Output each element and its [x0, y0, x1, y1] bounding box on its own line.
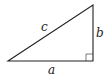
right-angle-marker: [86, 54, 93, 61]
right-triangle-diagram: c b a: [0, 0, 108, 78]
label-a: a: [48, 63, 55, 77]
label-b: b: [96, 26, 104, 40]
triangle: [8, 5, 93, 61]
label-c: c: [41, 20, 48, 34]
